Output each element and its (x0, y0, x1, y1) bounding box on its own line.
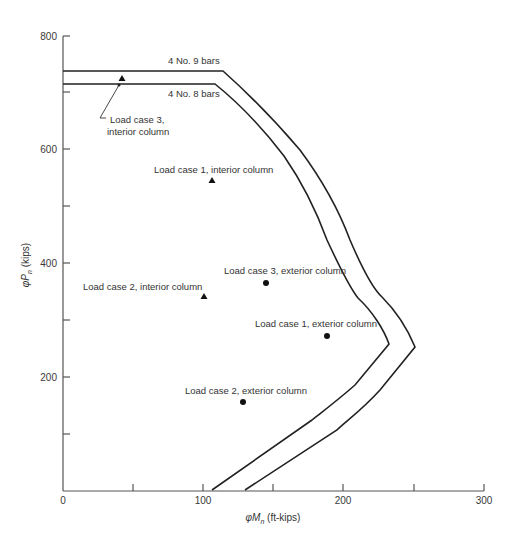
marker-lc2-exterior-circle-icon (240, 399, 246, 405)
label-4-no-8-bars: 4 No. 8 bars (168, 88, 220, 99)
label-4-no-9-bars: 4 No. 9 bars (168, 55, 220, 66)
leader-dot (118, 84, 121, 87)
marker-lc1-interior-triangle-icon (209, 177, 216, 183)
label-lc1-exterior: Load case 1, exterior column (255, 318, 377, 329)
marker-lc3-interior-triangle-icon (119, 75, 126, 81)
label-lc3-interior-line1: Load case 3, (110, 114, 164, 125)
y-axis: 800 600 400 200 φPn (kips) (20, 31, 70, 491)
label-lc3-exterior: Load case 3, exterior column (224, 265, 346, 276)
label-lc2-exterior: Load case 2, exterior column (185, 385, 307, 396)
x-tick-200: 200 (335, 495, 352, 506)
y-tick-200: 200 (40, 372, 57, 383)
y-tick-400: 400 (40, 258, 57, 269)
x-axis: 0 100 200 300 φMn (ft-kips) (60, 484, 493, 525)
interaction-diagram: 800 600 400 200 φPn (kips) 0 100 200 300… (0, 0, 513, 548)
y-axis-title: φPn (kips) (20, 243, 33, 287)
marker-lc2-interior-triangle-icon (201, 293, 208, 299)
label-lc2-interior: Load case 2, interior column (83, 281, 202, 292)
x-tick-100: 100 (195, 495, 212, 506)
label-lc3-interior-line2: interior column (107, 126, 169, 137)
y-tick-600: 600 (40, 144, 57, 155)
x-tick-0: 0 (60, 495, 66, 506)
marker-lc3-exterior-circle-icon (263, 280, 269, 286)
x-axis-title: φMn (ft-kips) (246, 512, 301, 525)
y-tick-800: 800 (40, 31, 57, 42)
marker-lc1-exterior-circle-icon (324, 333, 330, 339)
x-tick-300: 300 (476, 495, 493, 506)
label-lc1-interior: Load case 1, interior column (154, 164, 273, 175)
